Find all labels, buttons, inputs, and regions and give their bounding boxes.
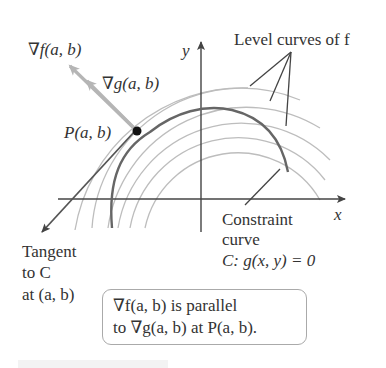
y-axis-label: y: [182, 41, 190, 61]
note-line2: to ∇g(a, b) at P(a, b).: [103, 318, 306, 338]
tangent-line: [42, 131, 135, 232]
lagrange-multiplier-diagram: ∇f(a, b) ∇g(a, b) P(a, b) y x Level curv…: [0, 0, 386, 368]
tangent-label-line3: at (a, b): [22, 285, 74, 305]
point-p: [133, 127, 142, 136]
grad-f-label: ∇f(a, b): [28, 40, 81, 60]
parallel-note-box: ∇f(a, b) is parallel to ∇g(a, b) at P(a,…: [102, 289, 307, 345]
x-axis-label: x: [334, 205, 342, 225]
tangent-label-line2: to C: [22, 263, 51, 283]
note-line1: ∇f(a, b) is parallel: [103, 296, 306, 316]
level-curves-label: Level curves of f: [234, 30, 350, 50]
constraint-label-line1: Constraint: [222, 210, 293, 230]
faded-caption: [18, 360, 168, 368]
tangent-label-line1: Tangent: [22, 242, 77, 262]
grad-g-label: ∇g(a, b): [102, 74, 159, 94]
constraint-equation: C: g(x, y) = 0: [222, 251, 315, 271]
constraint-label-line2: curve: [222, 230, 260, 250]
point-p-label: P(a, b): [64, 123, 111, 143]
